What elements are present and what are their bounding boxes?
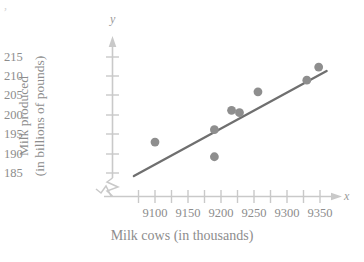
plot-canvas xyxy=(0,0,364,262)
data-point xyxy=(314,63,323,72)
x-axis-break-mark xyxy=(96,186,111,196)
scatter-plot-figure: , Milk produced (in billions of pounds) … xyxy=(0,0,364,262)
y-axis xyxy=(106,36,119,196)
data-point xyxy=(151,138,160,147)
data-point xyxy=(235,108,244,117)
data-point xyxy=(254,87,263,96)
data-point xyxy=(210,152,219,161)
trend-line xyxy=(134,71,327,176)
data-point xyxy=(302,76,311,85)
y-axis-break-mark xyxy=(107,178,118,196)
data-point xyxy=(227,106,236,115)
data-point xyxy=(210,125,219,134)
x-axis xyxy=(96,186,342,203)
data-point-group xyxy=(151,63,323,161)
